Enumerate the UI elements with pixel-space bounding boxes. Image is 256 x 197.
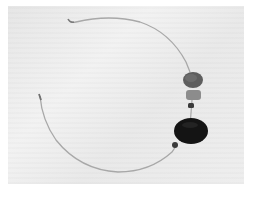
disc-pendant (174, 118, 208, 144)
disc-highlight (182, 122, 198, 128)
upper-bead-highlight (185, 74, 197, 82)
middle-bead (186, 90, 201, 100)
wire-lower (40, 96, 176, 172)
wire-hook-left (39, 94, 41, 100)
lower-small-bead (172, 142, 178, 148)
wire-upper (70, 18, 190, 72)
necklace-illustration (0, 0, 256, 197)
small-bead (188, 103, 194, 108)
wire-hook-top (68, 19, 74, 22)
